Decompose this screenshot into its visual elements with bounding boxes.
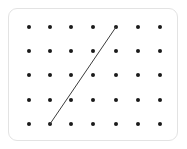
lattice-dot <box>69 73 73 77</box>
lattice-dot <box>48 122 52 126</box>
lattice-dot <box>48 49 52 53</box>
lattice-dot <box>91 122 95 126</box>
lattice-dot <box>158 122 162 126</box>
lattice-dot <box>27 49 31 53</box>
geoboard-figure <box>0 0 187 149</box>
lattice-dot <box>136 25 140 29</box>
lattice-dot <box>158 73 162 77</box>
lattice-dot <box>158 49 162 53</box>
lattice-dot <box>27 25 31 29</box>
lattice-dot <box>27 98 31 102</box>
lattice-dot <box>114 122 118 126</box>
lattice-dot <box>158 98 162 102</box>
lattice-dot <box>136 98 140 102</box>
lattice-dot <box>69 25 73 29</box>
lattice-dot <box>69 98 73 102</box>
lattice-dot <box>27 122 31 126</box>
lattice-dot <box>136 73 140 77</box>
lattice-dot <box>48 25 52 29</box>
lattice-dot <box>114 25 118 29</box>
lattice-dot <box>158 25 162 29</box>
lattice-dot <box>69 49 73 53</box>
dot-lattice <box>0 0 187 149</box>
lattice-dot <box>48 98 52 102</box>
lattice-dot <box>91 25 95 29</box>
lattice-dot <box>91 73 95 77</box>
lattice-dot <box>48 73 52 77</box>
lattice-dot <box>136 49 140 53</box>
lattice-dot <box>114 73 118 77</box>
lattice-dot <box>114 98 118 102</box>
lattice-dot <box>136 122 140 126</box>
lattice-dot <box>114 49 118 53</box>
lattice-dot <box>91 49 95 53</box>
lattice-dot <box>69 122 73 126</box>
lattice-dot <box>91 98 95 102</box>
lattice-dot <box>27 73 31 77</box>
